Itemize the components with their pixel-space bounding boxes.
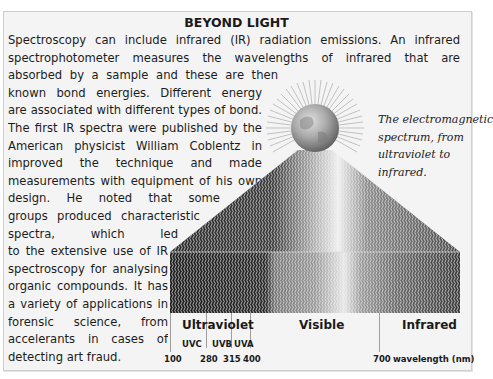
sub-band-uvb: UVB bbox=[212, 339, 232, 349]
tick-315: 315 bbox=[223, 354, 241, 364]
sub-band-uva: UVA bbox=[234, 339, 253, 349]
caption-line: spectrum, from bbox=[378, 131, 464, 144]
tick-400: 400 bbox=[243, 354, 261, 364]
caption-line: The electromagnetic bbox=[378, 113, 493, 126]
tick-100: 100 bbox=[164, 354, 182, 364]
caption-line: infrared. bbox=[378, 166, 427, 179]
band-label-ultraviolet: Ultraviolet bbox=[182, 318, 254, 332]
tick-280: 280 bbox=[200, 354, 218, 364]
band-label-infrared: Infrared bbox=[402, 318, 457, 332]
band-label-visible: Visible bbox=[299, 318, 344, 332]
globe-icon bbox=[291, 104, 339, 152]
axis-label-wavelength: wavelength (nm) bbox=[393, 354, 474, 364]
sub-band-uvc: UVC bbox=[182, 339, 202, 349]
tick-700: 700 bbox=[373, 354, 391, 364]
caption-line: ultraviolet to bbox=[378, 148, 450, 161]
